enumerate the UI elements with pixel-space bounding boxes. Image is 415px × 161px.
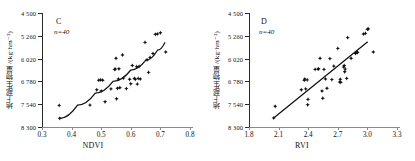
y-tick-label: 6 020 — [228, 55, 243, 62]
x-tick-panel-c — [160, 127, 161, 130]
x-tick-label: 2.7 — [333, 131, 342, 139]
x-tick-panel-d — [397, 127, 398, 130]
y-axis-title-d: 地上部生物量 /(kg·hm⁻²) — [210, 13, 223, 127]
y-tick-panel-d — [245, 81, 249, 82]
y-tick-panel-d — [245, 104, 249, 105]
x-tick-label: 1.8 — [245, 131, 254, 139]
x-tick-panel-c — [72, 127, 73, 130]
y-tick-label: 6 780 — [21, 78, 36, 85]
x-axis-line-d — [249, 127, 400, 128]
sample-size-c: n=40 — [54, 28, 69, 36]
fit-line-panel-d — [274, 42, 368, 118]
y-tick-label: 5 260 — [21, 32, 36, 39]
y-tick-panel-d — [245, 59, 249, 60]
scatter-panel-d: 地上部生物量 /(kg·hm⁻²) 8 3007 5406 7806 0205 … — [207, 0, 414, 161]
y-tick-label: 8 300 — [21, 124, 36, 131]
x-tick-panel-c — [190, 127, 191, 130]
x-axis-title-c: NDVI — [18, 141, 168, 150]
x-tick-label: 2.1 — [274, 131, 283, 139]
x-tick-label: 0.3 — [38, 131, 47, 139]
x-tick-label: 0.5 — [97, 131, 106, 139]
y-tick-panel-c — [38, 36, 42, 37]
x-tick-panel-c — [42, 127, 43, 130]
y-tick-label: 4 500 — [228, 10, 243, 17]
panel-label-c: C — [56, 17, 61, 26]
y-tick-panel-c — [38, 104, 42, 105]
y-tick-panel-d — [245, 36, 249, 37]
x-tick-panel-c — [131, 127, 132, 130]
x-tick-label: 0.4 — [67, 131, 76, 139]
sample-size-d: n=40 — [259, 28, 274, 36]
x-tick-panel-c — [101, 127, 102, 130]
x-tick-label: 3.0 — [363, 131, 372, 139]
x-tick-panel-d — [249, 127, 250, 130]
figure-canvas: 地上部生物量 /(kg·hm⁻²) 8 3007 5406 7806 0205 … — [0, 0, 415, 161]
y-tick-panel-c — [38, 13, 42, 14]
x-tick-panel-d — [279, 127, 280, 130]
x-tick-panel-d — [367, 127, 368, 130]
y-tick-label: 4 500 — [21, 10, 36, 17]
y-tick-panel-c — [38, 81, 42, 82]
x-tick-panel-d — [308, 127, 309, 130]
scatter-panel-c: 地上部生物量 /(kg·hm⁻²) 8 3007 5406 7806 0205 … — [0, 0, 207, 161]
x-tick-label: 0.8 — [186, 131, 195, 139]
x-axis-title-d: RVI — [227, 141, 377, 150]
panel-label-d: D — [261, 17, 267, 26]
x-tick-label: 3.3 — [393, 131, 402, 139]
y-tick-label: 7 540 — [228, 101, 243, 108]
x-axis-line-c — [42, 127, 193, 128]
y-tick-label: 6 780 — [228, 78, 243, 85]
y-tick-label: 8 300 — [228, 124, 243, 131]
y-tick-label: 7 540 — [21, 101, 36, 108]
y-tick-panel-c — [38, 59, 42, 60]
fit-line-panel-c — [60, 43, 165, 119]
y-tick-panel-d — [245, 13, 249, 14]
x-tick-label: 0.6 — [126, 131, 135, 139]
x-tick-label: 0.7 — [156, 131, 165, 139]
x-tick-label: 2.4 — [304, 131, 313, 139]
y-tick-label: 6 020 — [21, 55, 36, 62]
x-tick-panel-d — [338, 127, 339, 130]
y-axis-title-c: 地上部生物量 /(kg·hm⁻²) — [3, 13, 16, 127]
y-tick-label: 5 260 — [228, 32, 243, 39]
